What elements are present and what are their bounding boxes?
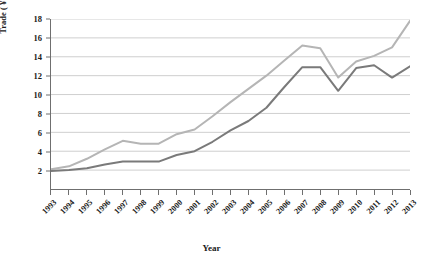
- y-axis-tick-label: 14: [34, 52, 43, 62]
- y-axis-tick-label: 6: [38, 128, 42, 138]
- x-axis-tick-mark: [122, 190, 123, 195]
- y-axis-tick-mark: [46, 114, 50, 115]
- line-chart: Trade ( ¥1 billion ) 24681012141618 Year…: [0, 0, 423, 267]
- data-series-layer: [51, 19, 410, 189]
- y-axis-tick-mark: [46, 152, 50, 153]
- y-axis-tick-mark: [46, 133, 50, 134]
- x-axis-tick-mark: [50, 190, 51, 195]
- y-axis-tick-label: 18: [34, 14, 43, 24]
- x-axis-tick-mark: [176, 190, 177, 195]
- y-axis-tick-label: 4: [38, 147, 42, 157]
- series-line-series-light: [51, 21, 410, 169]
- x-axis-tick-mark: [104, 190, 105, 195]
- x-axis-tick-mark: [158, 190, 159, 195]
- series-line-series-dark: [51, 65, 410, 171]
- x-axis-tick-mark: [410, 190, 411, 195]
- plot-area: [50, 19, 410, 190]
- x-axis-tick-mark: [266, 190, 267, 195]
- x-axis-tick-mark: [392, 190, 393, 195]
- x-axis-tick-mark: [374, 190, 375, 195]
- y-axis-tick-mark: [46, 57, 50, 58]
- y-axis-tick-group: 24681012141618: [0, 19, 48, 190]
- x-axis-tick-mark: [284, 190, 285, 195]
- x-axis-tick-mark: [356, 190, 357, 195]
- x-axis-tick-mark: [68, 190, 69, 195]
- x-axis-tick-mark: [194, 190, 195, 195]
- x-axis-title: Year: [0, 243, 423, 253]
- x-axis-tick-mark: [212, 190, 213, 195]
- x-axis-tick-mark: [248, 190, 249, 195]
- y-axis-tick-label: 16: [34, 33, 43, 43]
- y-axis-tick-mark: [46, 38, 50, 39]
- x-axis-tick-mark: [338, 190, 339, 195]
- x-axis-tick-mark: [302, 190, 303, 195]
- y-axis-tick-mark: [46, 171, 50, 172]
- y-axis-tick-mark: [46, 76, 50, 77]
- y-axis-tick-label: 2: [38, 166, 42, 176]
- y-axis-tick-mark: [46, 95, 50, 96]
- x-axis-tick-mark: [320, 190, 321, 195]
- y-axis-tick-label: 12: [34, 71, 43, 81]
- y-axis-tick-label: 8: [38, 109, 42, 119]
- x-axis-tick-mark: [230, 190, 231, 195]
- y-axis-tick-label: 10: [34, 90, 43, 100]
- x-axis-tick-mark: [86, 190, 87, 195]
- x-axis-tick-mark: [140, 190, 141, 195]
- y-axis-tick-mark: [46, 19, 50, 20]
